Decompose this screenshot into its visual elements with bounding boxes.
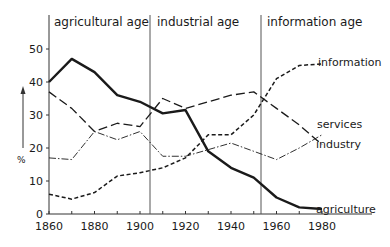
x-tick-label: 1920 [172,220,200,233]
x-tick-label: 1960 [263,220,291,233]
x-tick-label: 1860 [35,220,63,233]
series-group [49,59,322,209]
age-label-information: information age [267,15,362,29]
y-ticks: 01020304050 [29,43,49,221]
age-label-agricultural: agricultural age [54,15,149,29]
y-unit-label: % [17,155,26,165]
series-line-agriculture [49,59,322,209]
series-line-information [49,64,322,199]
line-chart: 01020304050 1860188019001920194019601980… [0,0,390,247]
chart-container: 01020304050 1860188019001920194019601980… [0,0,390,247]
series-label-agriculture: agriculture [316,203,376,216]
y-tick-label: 10 [29,175,43,188]
arrow-up-icon [21,86,26,94]
axes [49,15,372,214]
x-tick-label: 1940 [217,220,245,233]
x-tick-label: 1880 [81,220,109,233]
y-tick-label: 20 [29,142,43,155]
y-tick-label: 50 [29,43,43,56]
y-tick-label: 30 [29,109,43,122]
y-tick-label: 40 [29,76,43,89]
x-tick-label: 1900 [126,220,154,233]
series-label-industry: industry [316,138,362,151]
x-tick-label: 1980 [308,220,336,233]
age-label-industrial: industrial age [157,15,239,29]
series-label-information: information [318,56,382,69]
series-label-services: services [317,118,362,131]
series-line-industry [49,132,322,160]
